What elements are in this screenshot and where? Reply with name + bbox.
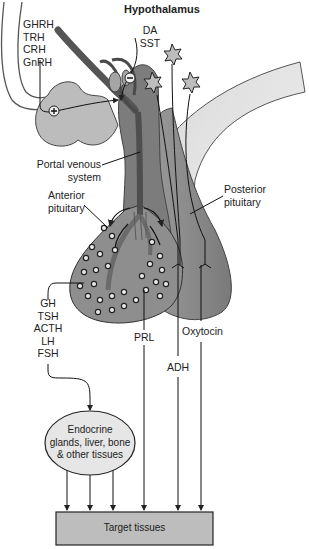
- anterior-hormones-list: GH TSH ACTH LH FSH: [30, 297, 66, 360]
- pituitary-diagram: Hypothalamus GHRH TRH CRH GnRH DA SST Po…: [0, 0, 309, 549]
- posterior-pituitary-label: Posterior pituitary: [224, 183, 266, 208]
- posterior-label-line2: pituitary: [224, 196, 266, 209]
- hormone-trh: TRH: [23, 31, 54, 44]
- inhibitory-hormones-list: DA SST: [137, 24, 163, 49]
- portal-label-line2: system: [35, 171, 101, 184]
- endocrine-line2: glands, liver, bone: [45, 437, 135, 450]
- hormone-prl: PRL: [134, 331, 154, 344]
- hormone-adh: ADH: [167, 361, 189, 374]
- posterior-label-line1: Posterior: [224, 183, 266, 196]
- hormone-fsh: FSH: [30, 347, 66, 360]
- hormone-crh: CRH: [23, 43, 54, 56]
- anterior-pituitary-label: Anterior pituitary: [48, 189, 85, 214]
- plus-sign-icon: [49, 106, 59, 116]
- hormone-gnrh: GnRH: [23, 56, 54, 69]
- hormone-ghrh: GHRH: [23, 18, 54, 31]
- hormone-da: DA: [137, 24, 163, 37]
- hormone-tsh: TSH: [30, 310, 66, 323]
- hormone-gh: GH: [30, 297, 66, 310]
- hormone-acth: ACTH: [30, 322, 66, 335]
- anterior-label-line2: pituitary: [48, 202, 85, 215]
- hormone-sst: SST: [137, 37, 163, 50]
- minus-sign-icon: [125, 73, 135, 83]
- endocrine-node-label: Endocrine glands, liver, bone & other ti…: [45, 424, 135, 462]
- releasing-hormones-list: GHRH TRH CRH GnRH: [23, 18, 54, 68]
- portal-venous-label: Portal venous system: [35, 158, 101, 183]
- portal-label-line1: Portal venous: [35, 158, 101, 171]
- endocrine-line1: Endocrine: [45, 424, 135, 437]
- hormone-oxytocin: Oxytocin: [182, 325, 223, 338]
- diagram-artwork: [0, 0, 309, 549]
- median-eminence: [36, 82, 118, 146]
- hormone-lh: LH: [30, 335, 66, 348]
- target-tissues-label: Target tissues: [56, 522, 213, 535]
- anterior-label-line1: Anterior: [48, 189, 85, 202]
- endocrine-line3: & other tissues: [45, 449, 135, 462]
- diagram-title: Hypothalamus: [124, 3, 200, 16]
